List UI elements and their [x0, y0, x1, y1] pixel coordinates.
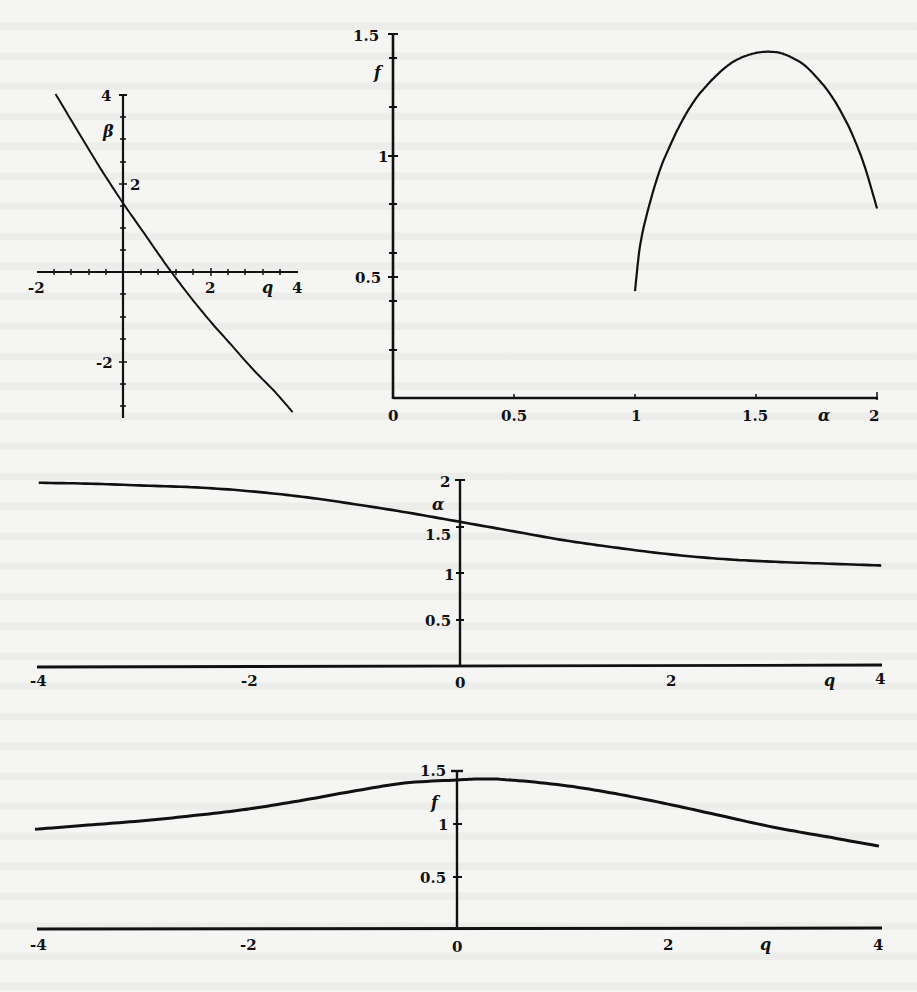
- plot-f-vs-alpha: 1.5 f 1 0.5 0 0.5 1 1.5 α 2: [353, 27, 879, 425]
- f-alpha-curve: [635, 52, 877, 291]
- x-axis: [37, 928, 882, 929]
- y-tick-0.5: 0.5: [355, 269, 381, 287]
- x-axis-label-q: q: [824, 671, 835, 690]
- figure-canvas: 4 β 2 -2 -2 2 q 4 1.5 f 1 0.5 0 0.5 1 1.…: [0, 0, 917, 992]
- x-tick-1: 1: [631, 407, 641, 425]
- x-tick-neg4: -4: [30, 672, 47, 690]
- x-tick-2: 2: [869, 407, 879, 425]
- y-tick-1: 1: [378, 148, 388, 166]
- x-tick-neg2: -2: [240, 936, 257, 954]
- x-tick-neg2: -2: [28, 279, 45, 297]
- plot-f-vs-q: 1.5 f 1 0.5 -4 -2 0 2 q 4: [30, 762, 883, 956]
- y-tick-1: 1: [444, 566, 454, 584]
- beta-curve: [56, 94, 293, 412]
- y-tick-neg2: -2: [96, 354, 113, 372]
- x-tick-2: 2: [666, 672, 676, 690]
- x-tick-2: 2: [205, 279, 215, 297]
- x-tick-0: 0: [388, 407, 398, 425]
- x-tick-1.5: 1.5: [742, 407, 768, 425]
- x-tick-0.5: 0.5: [501, 407, 527, 425]
- plot-beta-vs-q: 4 β 2 -2 -2 2 q 4: [28, 87, 302, 418]
- y-tick-1.5: 1.5: [420, 762, 446, 780]
- y-tick-2: 2: [440, 473, 450, 491]
- x-tick-4: 4: [875, 670, 885, 688]
- y-tick-1.5: 1.5: [425, 526, 451, 544]
- x-axis-label-q: q: [760, 935, 771, 954]
- x-tick-2: 2: [663, 936, 673, 954]
- y-axis-label-beta: β: [102, 122, 114, 141]
- y-tick-0.5: 0.5: [420, 869, 446, 887]
- x-axis-label-alpha: α: [818, 406, 830, 425]
- y-tick-1: 1: [438, 816, 448, 834]
- plot-alpha-vs-q: 2 α 1.5 1 0.5 -4 -2 0 2 q 4: [30, 473, 885, 692]
- y-tick-2: 2: [130, 176, 140, 194]
- x-tick-4: 4: [292, 279, 302, 297]
- x-axis-label-q: q: [262, 278, 273, 297]
- y-axis-label-alpha: α: [432, 495, 444, 514]
- y-tick-0.5: 0.5: [425, 612, 451, 630]
- x-tick-neg4: -4: [30, 936, 47, 954]
- x-tick-0: 0: [455, 674, 465, 692]
- x-tick-4: 4: [873, 936, 883, 954]
- y-tick-1.5: 1.5: [353, 27, 379, 45]
- x-tick-neg2: -2: [241, 672, 258, 690]
- y-axis-label-f: f: [373, 63, 384, 82]
- x-tick-0: 0: [452, 938, 462, 956]
- y-tick-4: 4: [101, 87, 111, 105]
- y-axis-label-f: f: [430, 793, 441, 812]
